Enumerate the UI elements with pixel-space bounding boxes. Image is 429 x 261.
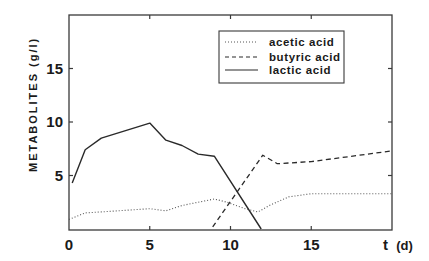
x-axis-variable: t	[383, 236, 388, 253]
y-tick-label: 5	[55, 167, 63, 184]
legend-label-lactic: lactic acid	[269, 64, 331, 76]
x-axis-label: t (d)	[383, 236, 413, 253]
y-axis-label: METABOLITES (g/l)	[27, 37, 39, 172]
legend-label-butyric: butyric acid	[269, 51, 341, 63]
lactic-acid-line	[72, 123, 261, 229]
legend: acetic acid butyric acid lactic acid	[219, 31, 344, 83]
data-series	[69, 123, 392, 229]
x-tick-label: 15	[303, 236, 320, 253]
legend-label-acetic: acetic acid	[269, 36, 334, 48]
x-axis-unit: (d)	[396, 238, 413, 253]
butyric-acid-line	[213, 151, 392, 227]
y-tick-label: 10	[46, 113, 63, 130]
metabolites-chart: 05101551015 METABOLITES (g/l) t (d) acet…	[0, 0, 429, 261]
x-tick-label: 5	[146, 236, 154, 253]
y-tick-label: 15	[46, 60, 63, 77]
x-tick-label: 0	[65, 236, 73, 253]
tick-labels: 05101551015	[46, 60, 319, 254]
x-tick-label: 10	[222, 236, 239, 253]
acetic-acid-line	[69, 194, 392, 220]
